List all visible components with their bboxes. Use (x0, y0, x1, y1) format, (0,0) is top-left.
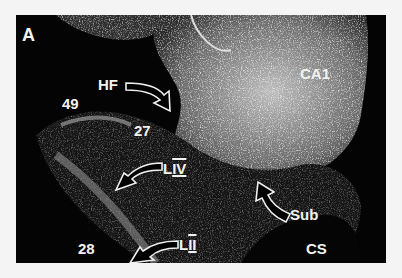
layer-ii-arrow-icon (128, 239, 180, 263)
layer-iv-arrow-icon (114, 161, 164, 197)
label-layer-ii: LII (179, 237, 197, 252)
hf-arrow-icon (124, 79, 184, 119)
label-ca1: CA1 (300, 66, 330, 81)
label-sub: Sub (290, 207, 318, 222)
label-hf: HF (98, 77, 118, 92)
micrograph-panel: A HF CA1 49 27 LIV LII Sub CS 28 (16, 15, 386, 263)
layer-iv-roman: IV (172, 160, 186, 177)
panel-letter: A (22, 26, 35, 44)
label-layer-iv: LIV (163, 161, 186, 176)
label-cs: CS (306, 241, 327, 256)
layer-ii-prefix: L (179, 236, 188, 253)
sub-arrow-icon (252, 180, 292, 225)
label-area-27: 27 (134, 123, 151, 138)
tissue-section-image (16, 15, 386, 263)
layer-iv-prefix: L (163, 160, 172, 177)
label-area-49: 49 (62, 96, 79, 111)
layer-ii-roman: II (188, 236, 196, 253)
label-area-28: 28 (78, 241, 95, 256)
